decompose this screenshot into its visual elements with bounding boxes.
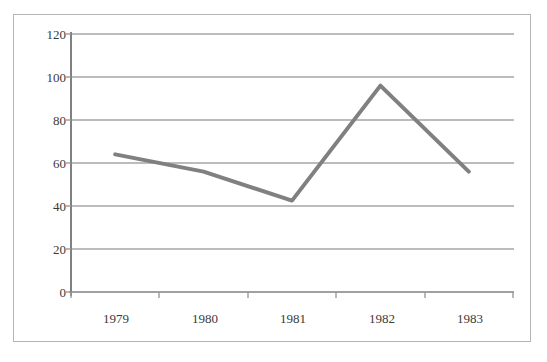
line-chart-svg (14, 15, 532, 343)
chart-border-frame: 120 100 80 60 40 20 0 1979 1980 1981 198… (13, 14, 531, 342)
x-axis-ticks (71, 292, 513, 298)
chart-plot-area: 120 100 80 60 40 20 0 1979 1980 1981 198… (14, 15, 532, 343)
gridlines (71, 34, 514, 249)
data-series-line (115, 86, 469, 201)
